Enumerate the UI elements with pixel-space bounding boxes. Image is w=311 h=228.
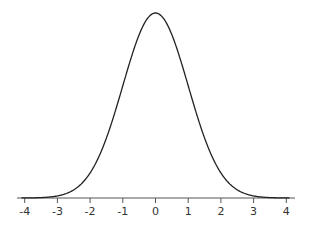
x-tick-label: 3: [250, 205, 257, 218]
normal-distribution-chart: -4-3-2-101234: [0, 0, 311, 228]
x-tick-label: 1: [185, 205, 192, 218]
x-tick-label: 0: [152, 205, 159, 218]
x-tick-label: -4: [19, 205, 30, 218]
x-tick-label: 2: [217, 205, 224, 218]
density-curve: [21, 13, 289, 198]
x-tick-label: 4: [283, 205, 290, 218]
x-axis-ticks: -4-3-2-101234: [19, 198, 290, 218]
x-tick-label: -2: [85, 205, 96, 218]
x-tick-label: -3: [52, 205, 63, 218]
x-tick-label: -1: [117, 205, 128, 218]
